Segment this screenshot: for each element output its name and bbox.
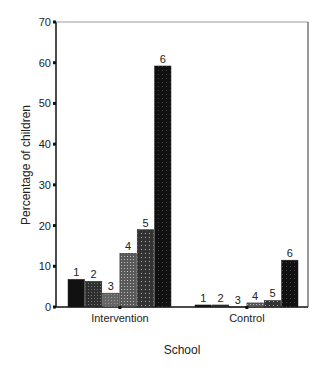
x-tick-label: Intervention — [91, 312, 148, 324]
bar-data-label: 2 — [217, 292, 223, 304]
bar-data-label: 1 — [200, 292, 206, 304]
bar-control-5 — [264, 300, 281, 307]
y-tick-label: 20 — [39, 220, 51, 232]
bar-control-2 — [212, 305, 229, 307]
y-axis-label: Percentage of children — [19, 105, 33, 225]
bar-intervention-6 — [155, 66, 172, 307]
x-tick — [245, 306, 248, 309]
y-tick — [53, 306, 56, 309]
bar-data-label: 4 — [125, 240, 131, 252]
y-tick — [53, 21, 56, 24]
bar-control-6 — [282, 260, 299, 307]
bar-intervention-4 — [120, 253, 136, 307]
bar-data-label: 1 — [73, 266, 79, 278]
y-tick — [53, 102, 56, 105]
y-tick — [53, 265, 56, 268]
bar-intervention-2 — [85, 281, 102, 307]
y-tick — [53, 143, 56, 146]
bar-data-label: 3 — [108, 280, 114, 292]
bar-intervention-5 — [137, 230, 154, 307]
y-tick-label: 30 — [39, 179, 51, 191]
x-axis: InterventionControl — [91, 306, 264, 324]
y-tick — [53, 224, 56, 227]
x-axis-label: School — [164, 343, 201, 357]
bar-control-3 — [230, 307, 247, 308]
bar-data-label: 5 — [142, 217, 148, 229]
bar-intervention-3 — [103, 293, 120, 307]
y-tick-label: 50 — [39, 97, 51, 109]
bar-data-label: 6 — [287, 247, 293, 259]
bar-data-label: 2 — [90, 268, 96, 280]
x-tick — [118, 306, 121, 309]
y-axis: 010203040506070 — [39, 16, 56, 313]
y-tick-label: 10 — [39, 260, 51, 272]
y-tick-label: 70 — [39, 16, 51, 28]
x-tick-label: Control — [229, 312, 264, 324]
bar-data-label: 3 — [235, 294, 241, 306]
y-tick-label: 0 — [45, 301, 51, 313]
bar-data-label: 4 — [252, 290, 258, 302]
plot-frame — [56, 22, 308, 307]
bar-control-4 — [247, 303, 264, 307]
bar-intervention-1 — [68, 279, 85, 307]
bar-chart: 010203040506070 123456123456 Interventio… — [0, 0, 327, 368]
y-tick — [53, 61, 56, 64]
bar-data-label: 5 — [269, 287, 275, 299]
bars: 123456123456 — [68, 53, 298, 307]
y-tick-label: 40 — [39, 138, 51, 150]
y-tick — [53, 183, 56, 186]
y-tick-label: 60 — [39, 57, 51, 69]
bar-data-label: 6 — [160, 53, 166, 65]
bar-control-1 — [195, 305, 212, 307]
